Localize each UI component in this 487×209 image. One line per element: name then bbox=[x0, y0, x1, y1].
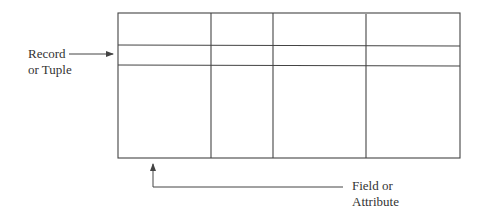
field-arrow bbox=[153, 164, 343, 187]
diagram-canvas bbox=[0, 0, 487, 209]
field-label: Field or Attribute bbox=[352, 178, 399, 209]
table-grid bbox=[118, 13, 460, 158]
table-outline bbox=[118, 13, 460, 158]
record-label: Record or Tuple bbox=[28, 46, 72, 78]
row-divider-record bbox=[118, 65, 460, 66]
row-divider-header bbox=[118, 45, 460, 46]
